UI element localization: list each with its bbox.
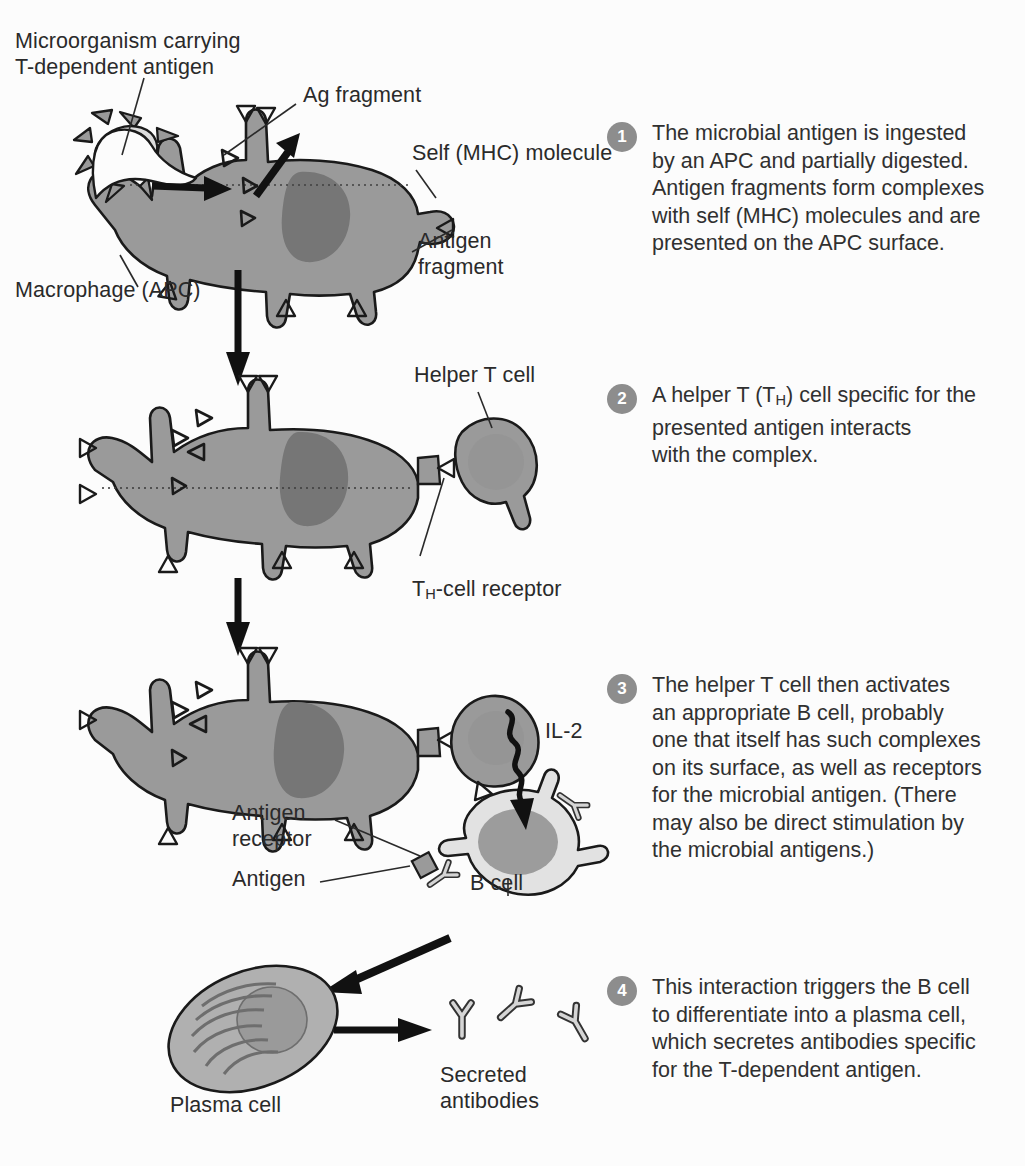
label-macrophage: Macrophage (APC) (15, 277, 201, 303)
label-microorganism: Microorganism carrying T-dependent antig… (15, 28, 241, 80)
step-2: 2 A helper T (TH) cell specific for the … (607, 382, 976, 470)
secreted-antibodies (453, 989, 593, 1043)
helper-t-cell-nucleus (468, 434, 524, 490)
flow-arrow-2-3 (226, 578, 250, 656)
presenting-neck (418, 456, 440, 484)
step-1: 1 The microbial antigen is ingested by a… (607, 120, 984, 258)
secretion-arrow (334, 1018, 432, 1042)
step-2-text: A helper T (TH) cell specific for the pr… (652, 382, 976, 470)
th-receptor-rest: -cell receptor (436, 577, 562, 601)
label-antigen-fragment: Antigen fragment (418, 228, 504, 280)
step-3-text: The helper T cell then activates an appr… (652, 672, 982, 865)
step-4-text: This interaction triggers the B cell to … (652, 974, 976, 1084)
diagram-figure: Microorganism carrying T-dependent antig… (0, 0, 1025, 1166)
label-antigen: Antigen (232, 866, 306, 892)
label-il2: IL-2 (545, 718, 582, 744)
label-secreted-antibodies: Secreted antibodies (440, 1062, 539, 1114)
step-2-badge: 2 (607, 384, 637, 414)
step-3-badge: 3 (607, 674, 637, 704)
step-1-text: The microbial antigen is ingested by an … (652, 120, 984, 258)
step-4-badge: 4 (607, 976, 637, 1006)
flow-arrow-3-4 (322, 938, 450, 994)
step-4: 4 This interaction triggers the B cell t… (607, 974, 976, 1084)
b-cell-nucleus (478, 809, 558, 875)
step-3: 3 The helper T cell then activates an ap… (607, 672, 982, 865)
step-2-subscript: H (776, 392, 787, 408)
label-th-cell-receptor: TH-cell receptor (388, 550, 561, 633)
label-plasma-cell: Plasma cell (170, 1092, 281, 1118)
bound-antigen (412, 852, 438, 878)
step-1-badge: 1 (607, 122, 637, 152)
label-helper-t-cell: Helper T cell (414, 362, 535, 388)
label-self-mhc: Self (MHC) molecule (412, 140, 612, 166)
label-ag-fragment: Ag fragment (303, 82, 421, 108)
label-b-cell: B cell (470, 870, 523, 896)
th-receptor-t: T (412, 577, 425, 601)
presenting-neck-3 (418, 728, 440, 756)
label-antigen-receptor: Antigen receptor (232, 800, 312, 852)
th-receptor-subscript: H (425, 586, 436, 602)
panel-3-b-cell-activation (80, 648, 608, 896)
macrophage-body-2 (88, 380, 418, 580)
step-2-text-pre: A helper T (T (652, 383, 776, 407)
